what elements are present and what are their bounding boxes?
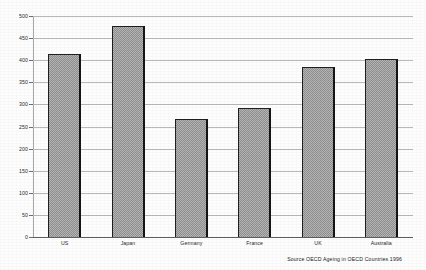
gridline <box>33 127 413 128</box>
y-axis-tick-label: 150 <box>4 168 28 174</box>
source-note: Source OECD Ageing in OECD Countries 199… <box>287 256 402 262</box>
bar-japan <box>112 26 145 237</box>
y-axis-tick <box>29 82 33 83</box>
plot-area <box>33 16 413 237</box>
x-axis-label-australia: Australia <box>350 240 413 247</box>
axis-baseline <box>33 237 413 238</box>
y-axis-tick-label: 200 <box>4 146 28 152</box>
y-axis-tick <box>29 237 33 238</box>
x-axis-label-france: France <box>223 240 286 247</box>
y-axis-tick <box>29 215 33 216</box>
y-axis-tick-label: 450 <box>4 35 28 41</box>
y-axis-tick-label: 50 <box>4 212 28 218</box>
gridline <box>33 104 413 105</box>
y-axis-tick <box>29 38 33 39</box>
y-axis-tick-label: 500 <box>4 13 28 19</box>
y-axis-tick-label: 250 <box>4 124 28 130</box>
gridline <box>33 16 413 17</box>
y-axis-tick-label: 400 <box>4 57 28 63</box>
y-axis-labels: 050100150200250300350400450500 <box>0 0 28 270</box>
y-axis-tick-label: 100 <box>4 190 28 196</box>
bar-germany <box>175 119 208 237</box>
y-axis-tick-label: 0 <box>4 234 28 240</box>
bar-uk <box>302 67 335 237</box>
gridline <box>33 60 413 61</box>
gridline <box>33 82 413 83</box>
y-axis-tick <box>29 149 33 150</box>
chart-page: 050100150200250300350400450500 USJapanGe… <box>0 0 426 270</box>
x-axis-label-japan: Japan <box>96 240 159 247</box>
y-axis-tick <box>29 104 33 105</box>
x-axis-label-uk: UK <box>286 240 349 247</box>
y-axis-tick <box>29 127 33 128</box>
x-axis-label-us: US <box>33 240 96 247</box>
gridline <box>33 38 413 39</box>
bar-australia <box>365 59 398 237</box>
gridline <box>33 215 413 216</box>
bar-france <box>238 108 271 238</box>
bar-us <box>48 54 81 237</box>
y-axis-tick <box>29 171 33 172</box>
y-axis-tick-label: 350 <box>4 79 28 85</box>
y-axis-tick <box>29 60 33 61</box>
x-axis-label-germany: Germany <box>160 240 223 247</box>
gridline <box>33 149 413 150</box>
y-axis-tick <box>29 16 33 17</box>
gridline <box>33 171 413 172</box>
y-axis-tick-label: 300 <box>4 101 28 107</box>
y-axis-tick <box>29 193 33 194</box>
gridline <box>33 193 413 194</box>
